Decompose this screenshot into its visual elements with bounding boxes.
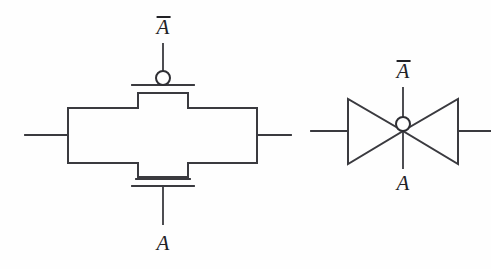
cross-bottom-label-text: A — [157, 231, 170, 255]
bowtie-bottom-label-a: A — [397, 173, 410, 194]
bowtie-bottom-label-text: A — [397, 171, 410, 195]
cross-inverting-bubble-icon — [156, 71, 170, 85]
cross-transmission-gate — [25, 44, 291, 224]
cross-bottom-label-a: A — [157, 233, 170, 254]
cross-body-outline — [68, 93, 257, 177]
circuit-diagram-figure: A A A A — [0, 0, 491, 269]
cross-top-label-a-bar: A — [157, 16, 170, 38]
bowtie-inverting-bubble-icon — [396, 117, 410, 131]
bowtie-top-label-a-bar: A — [397, 60, 410, 82]
bowtie-transmission-gate — [311, 88, 491, 168]
bowtie-top-label-text: A — [397, 60, 410, 82]
bowtie-right-triangle — [403, 99, 458, 164]
bowtie-left-triangle — [348, 99, 403, 164]
cross-top-label-text: A — [157, 16, 170, 38]
diagram-canvas — [0, 0, 491, 269]
